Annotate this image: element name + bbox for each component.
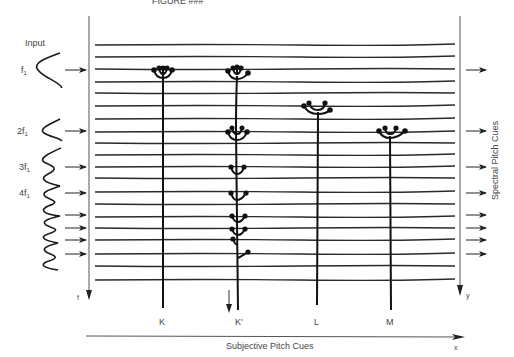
tree-label-k-prime: K' (235, 317, 243, 327)
tree-label-m: M (386, 317, 394, 327)
output-arrows (466, 70, 486, 254)
left-axis-label: f (77, 294, 79, 301)
input-label: Input (25, 38, 46, 48)
input-waveforms (37, 53, 62, 270)
pitch-tree-k (152, 66, 174, 308)
input-arrows (65, 70, 86, 254)
pitch-cue-diagram: FIGURE ### f y Spectral Pitch Cues Subje… (0, 0, 514, 357)
bottom-axis-label: x (454, 344, 458, 351)
harmonic-label-4f1: 4f1 (19, 188, 31, 199)
waveform-2f1 (42, 119, 62, 141)
waveform-4f1 (43, 186, 60, 270)
bottom-axis: Subjective Pitch Cues x (86, 334, 465, 351)
right-axis-title: Spectral Pitch Cues (490, 120, 500, 200)
bottom-axis-title: Subjective Pitch Cues (226, 341, 314, 351)
right-axis: y Spectral Pitch Cues (457, 16, 500, 300)
left-axis: f (77, 16, 92, 301)
down-arrow-icon (457, 285, 463, 296)
tree-labels: K K' L M (159, 317, 394, 327)
harmonic-labels: f1 2f1 3f1 4f1 (17, 65, 31, 199)
tree-label-l: L (314, 317, 319, 327)
down-arrow-icon (86, 290, 92, 300)
figure-title-fragment: FIGURE ### (152, 0, 204, 6)
harmonic-label-2f1: 2f1 (17, 126, 29, 137)
waveform-f1 (37, 53, 62, 88)
k-prime-down-arrow (226, 290, 232, 313)
frequency-channel-lines (95, 44, 455, 280)
pitch-tree-m (377, 126, 407, 310)
pitch-tree-k-prime (226, 65, 250, 310)
right-axis-label: y (466, 292, 470, 300)
harmonic-label-f1: f1 (21, 65, 28, 76)
tree-label-k: K (159, 317, 165, 327)
waveform-3f1 (43, 148, 61, 186)
harmonic-label-3f1: 3f1 (19, 162, 31, 173)
